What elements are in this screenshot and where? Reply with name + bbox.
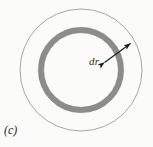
figure-panel-c: dr (c) [0, 0, 153, 147]
figure-background [0, 0, 153, 147]
figure-graphic [0, 0, 153, 147]
panel-letter-label: (c) [4, 124, 17, 136]
dr-annotation-label: dr [89, 56, 99, 67]
